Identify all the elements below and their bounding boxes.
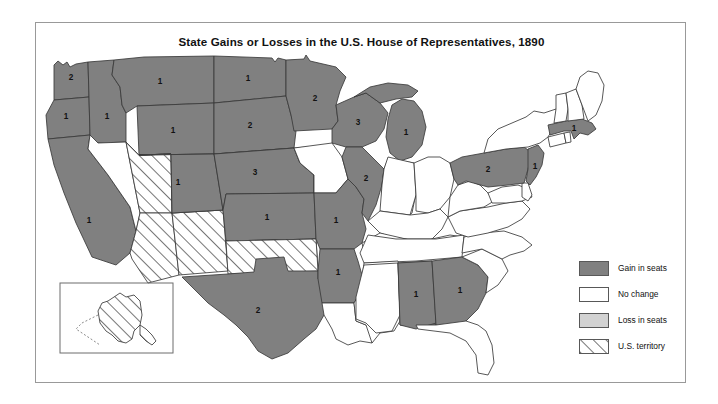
legend-item-loss[interactable]: Loss in seats (579, 307, 699, 333)
label-WI: 3 (356, 118, 361, 127)
state-KS[interactable] (223, 193, 316, 241)
label-KS: 1 (265, 213, 270, 222)
state-OH[interactable] (414, 157, 454, 213)
territory-AK[interactable] (98, 293, 142, 343)
state-IN-body[interactable] (380, 157, 416, 215)
legend-swatch-loss (579, 313, 609, 328)
label-SD: 2 (248, 121, 253, 130)
legend-swatch-nochange (579, 287, 609, 302)
state-WY[interactable] (137, 103, 214, 155)
label-MA: 1 (572, 124, 577, 133)
label-CO: 1 (176, 178, 181, 187)
territory-AZ[interactable] (130, 213, 179, 283)
label-AR: 1 (336, 268, 341, 277)
label-ND: 1 (246, 74, 251, 83)
label-NJ: 1 (533, 162, 538, 171)
label-AL: 1 (414, 290, 419, 299)
hatch-swatch-icon (580, 340, 608, 353)
label-NE: 3 (253, 168, 258, 177)
map-legend: Gain in seats No change Loss in seats U.… (579, 255, 699, 359)
label-MT: 1 (158, 77, 163, 86)
state-DE[interactable] (522, 183, 532, 201)
label-OR: 1 (64, 112, 69, 121)
state-MN[interactable] (286, 55, 346, 131)
label-CA: 1 (87, 216, 92, 225)
legend-swatch-gain (579, 261, 609, 276)
state-PA[interactable] (450, 147, 532, 187)
page-title: State Gains or Losses in the U.S. House … (36, 35, 687, 48)
label-GA: 1 (458, 286, 463, 295)
legend-item-gain[interactable]: Gain in seats (579, 255, 699, 281)
label-IL: 2 (364, 174, 369, 183)
legend-label-loss: Loss in seats (618, 315, 667, 325)
legend-label-territory: U.S. territory (618, 341, 665, 351)
label-PA: 2 (486, 165, 491, 174)
alaska-inset[interactable] (60, 283, 173, 353)
state-VT[interactable] (554, 93, 568, 123)
label-WA: 2 (69, 73, 74, 82)
label-MI: 1 (404, 128, 409, 137)
state-SD[interactable] (214, 96, 296, 154)
territory-NM[interactable] (172, 210, 228, 275)
legend-swatch-territory (579, 339, 609, 354)
label-TX: 2 (256, 306, 261, 315)
legend-item-nochange[interactable]: No change (579, 281, 699, 307)
label-ID: 1 (105, 112, 110, 121)
legend-label-nochange: No change (618, 289, 659, 299)
aleutian-chain (76, 315, 100, 345)
territory-AK-panhandle[interactable] (140, 325, 156, 345)
label-MN: 2 (313, 94, 318, 103)
legend-item-territory[interactable]: U.S. territory (579, 333, 699, 359)
map-card: State Gains or Losses in the U.S. House … (35, 22, 686, 383)
state-FL[interactable] (416, 321, 494, 375)
label-MO: 1 (334, 216, 339, 225)
label-WY: 1 (171, 126, 176, 135)
legend-label-gain: Gain in seats (618, 263, 667, 273)
